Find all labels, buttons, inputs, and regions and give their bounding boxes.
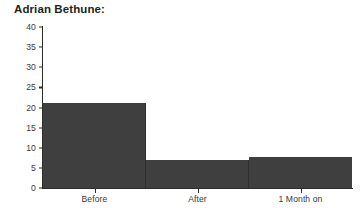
bar-before[interactable] [43, 103, 146, 188]
y-axis-tick-label: 20 [26, 103, 36, 113]
y-axis-tick-label: 15 [26, 123, 36, 133]
x-axis-tick-mark [301, 188, 302, 193]
y-axis-tick-label: 30 [26, 62, 36, 72]
x-axis-tick-label: After [188, 194, 207, 204]
x-axis-tick-mark [95, 188, 96, 193]
y-axis-tick-label: 10 [26, 143, 36, 153]
page-title: Adrian Bethune: [14, 3, 105, 15]
y-axis-tick-label: 40 [26, 22, 36, 32]
y-axis-tick-label: 5 [31, 163, 36, 173]
y-axis-tick-mark [39, 67, 43, 68]
y-axis-tick-mark [39, 47, 43, 48]
chart-screenshot: Adrian Bethune: 0510152025303540 BeforeA… [0, 0, 362, 208]
x-axis-tick-mark [198, 188, 199, 193]
y-axis-tick-mark [39, 27, 43, 28]
y-axis-tick-mark [39, 87, 43, 88]
x-axis-tick-label: Before [82, 194, 108, 204]
x-axis-tick-label: 1 Month on [279, 194, 323, 204]
plot-area: 0510152025303540 [43, 27, 352, 188]
bar-1-month-on[interactable] [249, 157, 352, 188]
y-axis-tick-label: 25 [26, 82, 36, 92]
y-axis-tick-label: 35 [26, 42, 36, 52]
bar-after[interactable] [146, 160, 249, 188]
y-axis-tick-label: 0 [31, 183, 36, 193]
